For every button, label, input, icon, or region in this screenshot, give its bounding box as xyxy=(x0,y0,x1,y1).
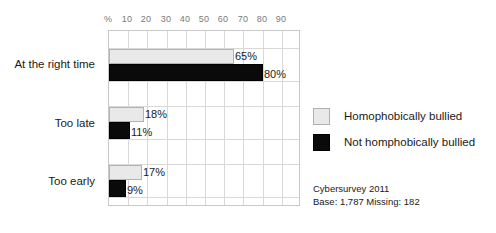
bar-value-too-early-light: 17% xyxy=(143,166,165,178)
bar-value-at-the-right-time-dark: 80% xyxy=(264,68,286,80)
bar-value-at-the-right-time-light: 65% xyxy=(235,50,257,62)
bar-chart: % 10 20 30 40 50 60 70 80 90 At the righ… xyxy=(0,0,496,233)
x-tick-90: 90 xyxy=(269,14,293,25)
bar-at-the-right-time-homophobically-bullied xyxy=(109,49,234,64)
legend-swatch-dark-icon xyxy=(313,134,330,151)
gridline-h-6 xyxy=(109,197,299,198)
legend-item-not-homphobically-bullied: Not homphobically bullied xyxy=(313,129,493,155)
bar-too-late-homophobically-bullied xyxy=(109,107,144,122)
category-label-too-late: Too late xyxy=(55,117,95,130)
gridline-v-80 xyxy=(263,31,264,205)
legend-label-homophobically-bullied: Homophobically bullied xyxy=(344,110,462,122)
category-label-at-the-right-time: At the right time xyxy=(14,58,95,71)
footnote-source-line: Cybersurvey 2011 xyxy=(313,183,420,196)
legend-label-not-homphobically-bullied: Not homphobically bullied xyxy=(344,136,475,148)
bar-too-late-not-homphobically-bullied xyxy=(109,122,130,139)
legend-swatch-light-icon xyxy=(313,108,330,125)
plot-area xyxy=(108,30,300,206)
category-label-too-early: Too early xyxy=(48,175,95,188)
bar-value-too-late-dark: 11% xyxy=(131,126,152,138)
bar-at-the-right-time-not-homphobically-bullied xyxy=(109,64,263,81)
bar-value-too-late-light: 18% xyxy=(145,108,167,120)
bar-value-too-early-dark: 9% xyxy=(127,184,143,196)
gridline-h-4 xyxy=(109,139,299,140)
chart-legend: Homophobically bullied Not homphobically… xyxy=(313,103,493,155)
bar-too-early-homophobically-bullied xyxy=(109,165,142,180)
gridline-v-90 xyxy=(282,31,283,205)
footnote-base-line: Base: 1,787 Missing: 182 xyxy=(313,196,420,209)
legend-item-homophobically-bullied: Homophobically bullied xyxy=(313,103,493,129)
bar-too-early-not-homphobically-bullied xyxy=(109,180,126,197)
gridline-h-2 xyxy=(109,81,299,82)
chart-footnote: Cybersurvey 2011 Base: 1,787 Missing: 18… xyxy=(313,183,420,208)
